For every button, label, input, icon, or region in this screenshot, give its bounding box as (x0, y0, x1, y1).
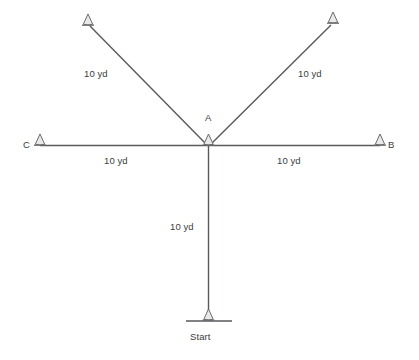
label-distance-upper-left: 10 yd (84, 68, 108, 79)
diagram-svg (0, 0, 419, 360)
edge-a-to-upper-right (210, 25, 331, 145)
cone-upper-left (82, 14, 94, 25)
cone-point-c (34, 134, 46, 145)
label-start: Start (190, 331, 211, 342)
label-distance-vertical: 10 yd (170, 221, 194, 232)
label-distance-right: 10 yd (277, 155, 301, 166)
label-distance-left: 10 yd (104, 155, 128, 166)
cone-upper-right (327, 12, 339, 23)
diagram-canvas: A C B Start 10 yd 10 yd 10 yd 10 yd 10 y… (0, 0, 419, 360)
label-point-a: A (205, 112, 211, 123)
cone-point-a (203, 134, 215, 145)
label-point-b: B (388, 139, 394, 150)
cone-point-b (374, 134, 386, 145)
edge-a-to-upper-left (90, 26, 207, 145)
cone-start (203, 309, 215, 320)
label-distance-upper-right: 10 yd (298, 68, 322, 79)
label-point-c: C (23, 139, 30, 150)
